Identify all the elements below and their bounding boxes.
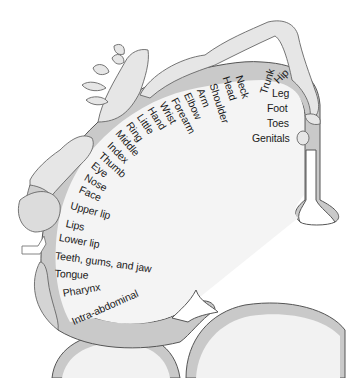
label-tongue: Tongue [54,268,88,280]
label-toes: Toes [267,118,289,129]
cortex-illustration [0,0,351,378]
label-leg: Leg [272,88,289,99]
homunculus-diagram: GenitalsToesFootLegHipTrunkNeckHeadShoul… [0,0,351,378]
label-foot: Foot [267,103,288,114]
label-genitals: Genitals [252,133,290,144]
